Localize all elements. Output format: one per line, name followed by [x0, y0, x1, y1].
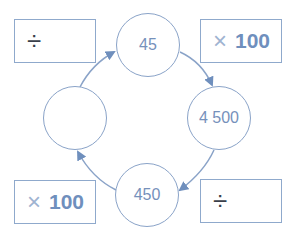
circle-left-answer[interactable]: [43, 86, 107, 150]
circle-value: 4 500: [199, 109, 239, 127]
operation-box-bottom-right[interactable]: ÷: [200, 179, 282, 223]
circle-top: 45: [116, 13, 180, 77]
circle-value: 450: [134, 186, 161, 204]
operation-box-bottom-left[interactable]: × 100: [14, 180, 96, 224]
operand-value: 100: [235, 29, 270, 53]
circle-value: 45: [139, 36, 157, 54]
divide-icon: ÷: [213, 188, 227, 214]
divide-icon: ÷: [27, 28, 41, 54]
circle-bottom: 450: [115, 163, 179, 227]
operation-box-top-left[interactable]: ÷: [14, 19, 96, 63]
circle-right: 4 500: [187, 86, 251, 150]
multiply-icon: ×: [213, 29, 227, 53]
multiply-icon: ×: [27, 190, 41, 214]
operation-box-top-right[interactable]: × 100: [200, 19, 282, 63]
operand-value: 100: [49, 190, 84, 214]
